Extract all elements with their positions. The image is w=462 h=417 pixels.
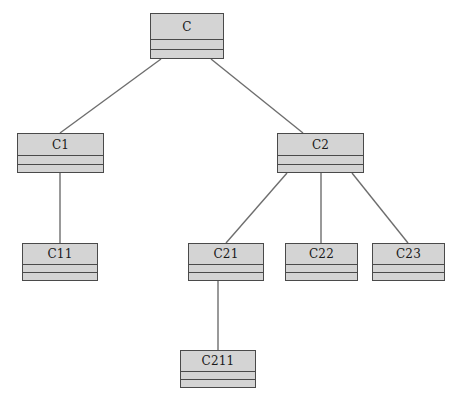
class-operations-compartment [181,380,255,387]
class-node-c22[interactable]: C22 [285,243,358,281]
class-operations-compartment [151,50,223,58]
class-operations-compartment [278,165,363,172]
edge-c2-to-c21 [226,173,287,243]
class-operations-compartment [23,273,97,280]
class-name-label: C22 [286,244,357,265]
class-node-c11[interactable]: C11 [22,243,98,281]
class-node-c[interactable]: C [150,13,224,59]
class-attributes-compartment [23,265,97,273]
class-operations-compartment [18,165,103,172]
class-attributes-compartment [189,265,263,273]
edge-c-to-c1 [60,59,161,133]
class-operations-compartment [189,273,263,280]
class-operations-compartment [373,273,444,280]
class-attributes-compartment [181,372,255,380]
class-attributes-compartment [151,40,223,50]
class-name-label: C2 [278,134,363,156]
class-node-c23[interactable]: C23 [372,243,445,281]
class-name-label: C23 [373,244,444,265]
class-name-label: C211 [181,351,255,372]
class-diagram-canvas: CC1C2C11C21C22C23C211 [0,0,462,417]
class-attributes-compartment [286,265,357,273]
class-node-c211[interactable]: C211 [180,350,256,388]
edge-c-to-c2 [211,59,303,133]
class-name-label: C21 [189,244,263,265]
edge-c2-to-c23 [352,173,408,243]
class-attributes-compartment [278,156,363,165]
class-node-c2[interactable]: C2 [277,133,364,173]
class-node-c21[interactable]: C21 [188,243,264,281]
class-attributes-compartment [373,265,444,273]
class-name-label: C1 [18,134,103,156]
class-operations-compartment [286,273,357,280]
class-attributes-compartment [18,156,103,165]
class-name-label: C [151,14,223,40]
class-node-c1[interactable]: C1 [17,133,104,173]
class-name-label: C11 [23,244,97,265]
